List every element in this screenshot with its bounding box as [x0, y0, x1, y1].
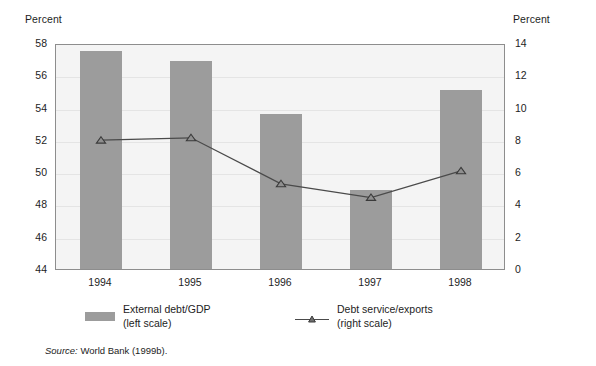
x-tick-1995: 1995 — [160, 276, 220, 288]
legend-item-debt-service: Debt service/exports (right scale) — [295, 303, 433, 330]
x-axis-tick-labels: 19941995199619971998 — [55, 276, 505, 294]
left-tick-54: 54 — [19, 102, 47, 114]
legend-item-external-debt: External debt/GDP (left scale) — [85, 303, 211, 330]
source-note: Source: World Bank (1999b). — [45, 345, 167, 356]
x-tick-1997: 1997 — [340, 276, 400, 288]
right-tick-8: 8 — [515, 134, 543, 146]
legend-item-external-debt-label: External debt/GDP (left scale) — [123, 303, 211, 330]
left-tick-46: 46 — [19, 231, 47, 243]
right-tick-0: 0 — [515, 263, 543, 275]
left-axis-tick-labels: 4446485052545658 — [17, 44, 47, 270]
left-tick-58: 58 — [19, 37, 47, 49]
left-tick-48: 48 — [19, 198, 47, 210]
x-tick-1996: 1996 — [250, 276, 310, 288]
right-tick-2: 2 — [515, 231, 543, 243]
legend-debt-service-line1: Debt service/exports — [337, 303, 433, 317]
line-marker-1996 — [276, 180, 285, 186]
source-text: World Bank (1999b). — [80, 345, 167, 356]
line-marker-1998 — [456, 167, 465, 173]
right-tick-12: 12 — [515, 69, 543, 81]
x-tick-1994: 1994 — [70, 276, 130, 288]
line-series — [56, 45, 506, 271]
source-label: Source: — [45, 345, 78, 356]
legend-debt-service-line2: (right scale) — [337, 317, 433, 331]
left-tick-50: 50 — [19, 166, 47, 178]
legend-external-debt-line2: (left scale) — [123, 317, 211, 331]
right-tick-10: 10 — [515, 102, 543, 114]
right-axis-title: Percent — [513, 13, 550, 25]
right-axis-tick-labels: 02468101214 — [515, 44, 545, 270]
legend-bar-swatch-icon — [85, 312, 115, 321]
plot-area — [55, 44, 505, 270]
line-series-markers — [96, 134, 465, 200]
right-tick-14: 14 — [515, 37, 543, 49]
chart-figure: Percent Percent 4446485052545658 0246810… — [0, 0, 596, 366]
legend-line-marker-icon — [295, 311, 329, 322]
left-tick-56: 56 — [19, 69, 47, 81]
left-axis-title: Percent — [25, 13, 62, 25]
legend-item-debt-service-label: Debt service/exports (right scale) — [337, 303, 433, 330]
left-tick-52: 52 — [19, 134, 47, 146]
x-tick-1998: 1998 — [430, 276, 490, 288]
right-tick-6: 6 — [515, 166, 543, 178]
right-tick-4: 4 — [515, 198, 543, 210]
legend-external-debt-line1: External debt/GDP — [123, 303, 211, 317]
left-tick-44: 44 — [19, 263, 47, 275]
chart-legend: External debt/GDP (left scale) Debt serv… — [0, 303, 596, 333]
line-series-path — [101, 138, 461, 198]
